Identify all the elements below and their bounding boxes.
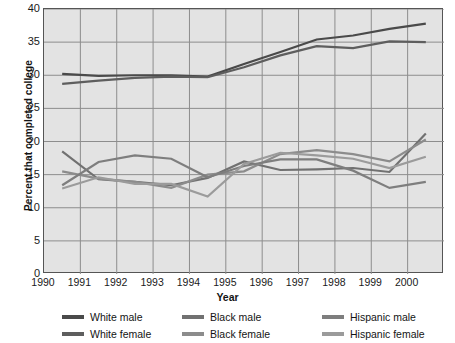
y-tick-label: 5 — [18, 234, 40, 246]
grid-lines — [44, 9, 444, 274]
legend-label: Hispanic female — [350, 328, 425, 340]
legend-swatch-icon — [62, 315, 84, 319]
legend-item[interactable]: Black female — [182, 325, 332, 342]
x-tick-label: 1999 — [359, 276, 382, 288]
legend-column: Hispanic maleHispanic female — [322, 308, 455, 342]
x-tick-label: 1997 — [286, 276, 309, 288]
plot-area — [43, 8, 443, 273]
x-tick-label: 1994 — [177, 276, 200, 288]
legend-label: Hispanic male — [350, 311, 416, 323]
legend-swatch-icon — [322, 332, 344, 336]
x-axis-tick-labels: 1990199119921993199419951996199719981999… — [0, 276, 455, 292]
x-tick-label: 1995 — [213, 276, 236, 288]
x-tick-label: 1991 — [68, 276, 91, 288]
x-tick-label: 1992 — [104, 276, 127, 288]
legend-label: White male — [90, 311, 143, 323]
y-tick-label: 35 — [18, 35, 40, 47]
legend-label: Black female — [210, 328, 270, 340]
x-tick-label: 1996 — [249, 276, 272, 288]
plot-svg — [44, 9, 444, 274]
legend-item[interactable]: Black male — [182, 308, 332, 325]
y-tick-label: 40 — [18, 2, 40, 14]
legend-item[interactable]: Hispanic male — [322, 308, 455, 325]
legend-column: Black maleBlack female — [182, 308, 332, 342]
legend-label: White female — [90, 328, 151, 340]
legend-swatch-icon — [62, 332, 84, 336]
chart-legend: White maleWhite femaleBlack maleBlack fe… — [0, 308, 455, 343]
y-tick-label: 25 — [18, 101, 40, 113]
x-axis-title: Year — [0, 291, 455, 303]
chart-figure: Percent that completed college 051015202… — [0, 0, 455, 343]
legend-swatch-icon — [182, 332, 204, 336]
y-tick-label: 30 — [18, 68, 40, 80]
legend-item[interactable]: Hispanic female — [322, 325, 455, 342]
legend-label: Black male — [210, 311, 261, 323]
legend-swatch-icon — [182, 315, 204, 319]
x-tick-label: 1993 — [140, 276, 163, 288]
legend-swatch-icon — [322, 315, 344, 319]
x-tick-label: 1998 — [322, 276, 345, 288]
y-tick-label: 15 — [18, 168, 40, 180]
y-tick-label: 10 — [18, 201, 40, 213]
x-tick-label: 2000 — [395, 276, 418, 288]
y-tick-label: 20 — [18, 135, 40, 147]
x-tick-label: 1990 — [31, 276, 54, 288]
